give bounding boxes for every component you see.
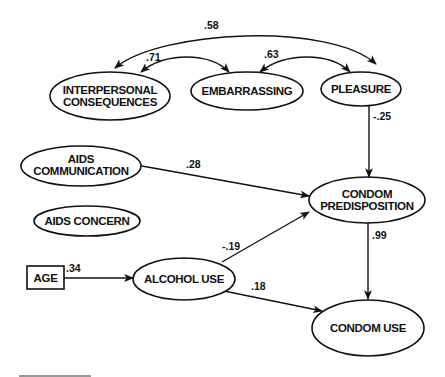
coef-label: -.25: [373, 110, 391, 122]
path-alcohol-predisposition: [222, 212, 309, 262]
node-aids-concern: AIDS CONCERN: [34, 206, 140, 236]
coef-label: .99: [372, 229, 387, 241]
path-diagram: .58 .71 .63 -.25 .28 -.19 .99 .34 .18 IN…: [0, 0, 445, 377]
path-alcohol-condomuse: [224, 291, 322, 311]
coef-label: .18: [251, 280, 266, 292]
svg-text:AIDS CONCERN: AIDS CONCERN: [44, 215, 129, 227]
node-embarrassing: EMBARRASSING: [191, 72, 303, 110]
svg-text:AIDS: AIDS: [68, 153, 95, 165]
node-age: AGE: [27, 266, 64, 289]
coef-label: .34: [66, 262, 81, 274]
path-communication-predisposition: [142, 166, 309, 196]
svg-text:ALCOHOL USE: ALCOHOL USE: [144, 273, 225, 285]
node-interpersonal-consequences: INTERPERSONAL CONSEQUENCES: [50, 72, 170, 120]
svg-text:PLEASURE: PLEASURE: [331, 83, 392, 95]
svg-text:COMMUNICATION: COMMUNICATION: [33, 165, 129, 177]
coef-label: .28: [186, 158, 201, 170]
node-condom-use: CONDOM USE: [312, 300, 424, 356]
svg-text:AGE: AGE: [33, 272, 58, 284]
coef-label: -.19: [222, 240, 240, 252]
svg-text:EMBARRASSING: EMBARRASSING: [202, 85, 293, 97]
coef-label: .58: [204, 19, 219, 31]
node-aids-communication: AIDS COMMUNICATION: [21, 146, 141, 186]
node-pleasure: PLEASURE: [321, 72, 401, 106]
svg-text:CONDOM: CONDOM: [342, 188, 393, 200]
svg-text:CONSEQUENCES: CONSEQUENCES: [63, 96, 158, 108]
node-alcohol-use: ALCOHOL USE: [133, 258, 235, 300]
svg-text:INTERPERSONAL: INTERPERSONAL: [63, 84, 158, 96]
node-condom-predisposition: CONDOM PREDISPOSITION: [309, 177, 425, 223]
coef-label: .71: [146, 51, 161, 63]
svg-text:PREDISPOSITION: PREDISPOSITION: [320, 200, 414, 212]
svg-text:CONDOM USE: CONDOM USE: [330, 322, 407, 334]
coef-label: .63: [264, 48, 279, 60]
